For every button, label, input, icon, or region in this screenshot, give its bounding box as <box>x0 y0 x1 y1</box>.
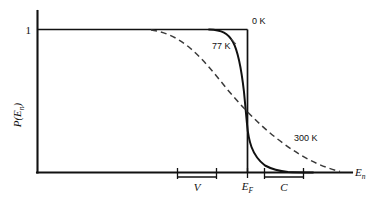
annotation-300k: 300 K <box>294 133 318 143</box>
fermi-dirac-figure: 1 P(En) 0 K 77 K 300 K EF V C En <box>0 0 375 201</box>
fermi-level-label-subscript: F <box>248 186 254 195</box>
y-axis-label-paren: ) <box>11 102 24 107</box>
annotation-0k: 0 K <box>252 16 266 26</box>
axes-group <box>37 11 352 173</box>
y-axis-label: P(En) <box>11 102 26 128</box>
x-axis-label: En <box>354 166 366 181</box>
plot-canvas: 1 P(En) 0 K 77 K 300 K EF V C En <box>0 0 375 201</box>
y-tick-label-one: 1 <box>26 24 32 36</box>
y-axis-label-main: P(E <box>11 110 24 128</box>
x-axis-label-subscript: n <box>362 172 366 181</box>
annotation-77k: 77 K <box>212 41 231 51</box>
fermi-level-label: EF <box>241 180 254 195</box>
valence-band-label: V <box>194 181 202 193</box>
y-axis-label-group: P(En) <box>11 102 26 128</box>
conduction-band-label: C <box>280 181 288 193</box>
